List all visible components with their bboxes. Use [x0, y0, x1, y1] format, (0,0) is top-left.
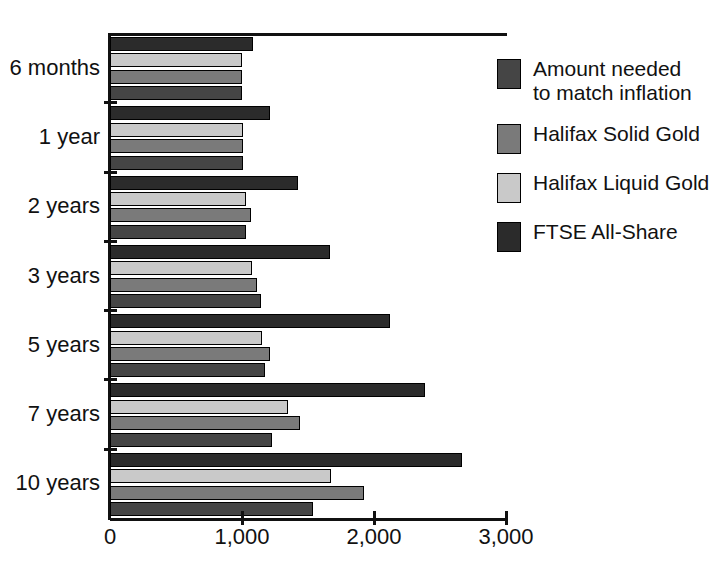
bar-1-year-ftse-all-share — [110, 106, 270, 120]
plot-area — [110, 33, 506, 518]
x-axis-tick-2000 — [373, 511, 376, 525]
legend-item-3: FTSE All-Share — [497, 220, 712, 252]
bar-10-years-halifax-solid-gold — [110, 486, 364, 500]
bar-3-years-halifax-solid-gold — [110, 278, 257, 292]
legend-label: Amount needed to match inflation — [533, 57, 692, 105]
bar-6-months-halifax-liquid-gold — [110, 53, 242, 67]
bar-5-years-halifax-liquid-gold — [110, 331, 262, 345]
bar-1-year-amount-needed-to-match-inflation — [110, 156, 243, 170]
legend-item-1: Halifax Solid Gold — [497, 122, 712, 154]
bar-2-years-halifax-liquid-gold — [110, 192, 246, 206]
bar-7-years-halifax-solid-gold — [110, 416, 300, 430]
x-axis-line — [110, 518, 507, 521]
legend-item-0: Amount needed to match inflation — [497, 57, 712, 105]
bar-10-years-halifax-liquid-gold — [110, 469, 331, 483]
bar-2-years-halifax-solid-gold — [110, 208, 251, 222]
bar-6-months-amount-needed-to-match-inflation — [110, 86, 242, 100]
y-axis-tick — [104, 240, 117, 243]
bar-3-years-amount-needed-to-match-inflation — [110, 294, 261, 308]
y-axis-tick — [104, 101, 117, 104]
bar-7-years-ftse-all-share — [110, 383, 425, 397]
bar-6-months-halifax-solid-gold — [110, 70, 242, 84]
legend-swatch-icon — [497, 124, 521, 154]
chart-legend: Amount needed to match inflationHalifax … — [497, 57, 712, 269]
y-axis-tick — [104, 448, 117, 451]
y-axis-tick — [104, 171, 117, 174]
bar-1-year-halifax-liquid-gold — [110, 123, 243, 137]
x-axis-label-2000: 2,000 — [346, 526, 401, 548]
x-axis-label-0: 0 — [104, 526, 116, 548]
bar-3-years-halifax-liquid-gold — [110, 261, 252, 275]
y-axis-tick — [104, 309, 117, 312]
legend-swatch-icon — [497, 222, 521, 252]
x-axis-label-1000: 1,000 — [214, 526, 269, 548]
x-axis-label-3000: 3,000 — [478, 526, 533, 548]
y-axis-label-2-years: 2 years — [0, 194, 100, 218]
legend-swatch-icon — [497, 59, 521, 89]
bar-chart: 6 months1 year2 years3 years5 years7 yea… — [0, 0, 716, 574]
bar-5-years-amount-needed-to-match-inflation — [110, 363, 265, 377]
legend-label: Halifax Liquid Gold — [533, 171, 709, 195]
x-axis-tick-3000 — [505, 511, 508, 525]
bar-2-years-ftse-all-share — [110, 176, 298, 190]
x-axis-tick-1000 — [241, 511, 244, 525]
y-axis-label-1-year: 1 year — [0, 125, 100, 149]
y-axis-label-7-years: 7 years — [0, 402, 100, 426]
bar-5-years-ftse-all-share — [110, 314, 390, 328]
legend-item-2: Halifax Liquid Gold — [497, 171, 712, 203]
legend-label: FTSE All-Share — [533, 220, 678, 244]
bar-5-years-halifax-solid-gold — [110, 347, 270, 361]
y-axis-tick — [104, 378, 117, 381]
bar-6-months-ftse-all-share — [110, 37, 253, 51]
bar-3-years-ftse-all-share — [110, 245, 330, 259]
bar-10-years-amount-needed-to-match-inflation — [110, 502, 313, 516]
y-axis-label-3-years: 3 years — [0, 264, 100, 288]
bar-2-years-amount-needed-to-match-inflation — [110, 225, 246, 239]
y-axis-label-5-years: 5 years — [0, 333, 100, 357]
bar-10-years-ftse-all-share — [110, 453, 462, 467]
legend-swatch-icon — [497, 173, 521, 203]
y-axis-label-6-months: 6 months — [0, 56, 100, 80]
bar-7-years-amount-needed-to-match-inflation — [110, 433, 272, 447]
legend-label: Halifax Solid Gold — [533, 122, 700, 146]
bar-1-year-halifax-solid-gold — [110, 139, 243, 153]
y-axis-label-10-years: 10 years — [0, 471, 100, 495]
bar-7-years-halifax-liquid-gold — [110, 400, 288, 414]
